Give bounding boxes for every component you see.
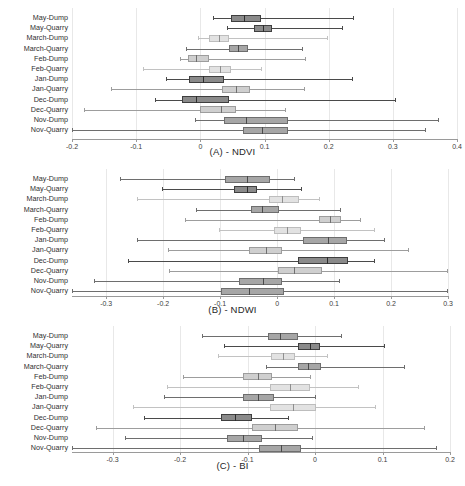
plot-area-ndwi: May-DumpMay-QuarryMarch-DumpMarch-Quarry…: [0, 165, 465, 325]
x-tick-0: [113, 452, 114, 455]
x-tick-3: [265, 139, 266, 142]
x-tick-6: [457, 139, 458, 142]
x-tick-2: [200, 139, 201, 142]
x-axis-ndwi: -0.3-0.2-0.100.10.20.3: [0, 165, 465, 325]
x-tick-5: [393, 139, 394, 142]
axis-line: [72, 452, 450, 453]
x-tick-1: [136, 139, 137, 142]
x-tick-5: [391, 296, 392, 299]
panel-ndwi: May-DumpMay-QuarryMarch-DumpMarch-Quarry…: [0, 165, 465, 325]
x-tick-3: [315, 452, 316, 455]
x-tick-0: [106, 296, 107, 299]
x-tick-1: [163, 296, 164, 299]
x-tick-4: [383, 452, 384, 455]
panel-ndvi: May-DumpMay-QuarryMarch-DumpMarch-Quarry…: [0, 0, 465, 165]
x-tick-3: [277, 296, 278, 299]
x-tick-0: [72, 139, 73, 142]
x-tick-2: [248, 452, 249, 455]
figure-root: May-DumpMay-QuarryMarch-DumpMarch-Quarry…: [0, 0, 465, 486]
panel-caption-ndvi: (A) - NDVI: [0, 146, 465, 157]
panel-caption-ndwi: (B) - NDWI: [0, 304, 465, 315]
x-tick-2: [220, 296, 221, 299]
x-tick-4: [334, 296, 335, 299]
plot-area-ndvi: May-DumpMay-QuarryMarch-DumpMarch-Quarry…: [0, 0, 465, 165]
panel-caption-bi: (C) - BI: [0, 460, 465, 471]
panel-bi: May-DumpMay-QuarryMarch-DumpMarch-Quarry…: [0, 325, 465, 486]
x-tick-5: [450, 452, 451, 455]
x-tick-6: [448, 296, 449, 299]
x-axis-ndvi: -0.2-0.100.10.20.30.4: [0, 0, 465, 165]
x-tick-1: [180, 452, 181, 455]
x-tick-4: [329, 139, 330, 142]
